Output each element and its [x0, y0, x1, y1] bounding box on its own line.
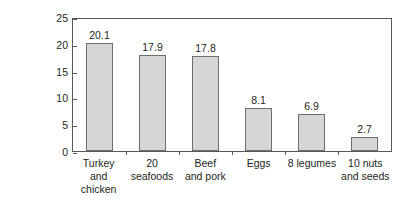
x-axis-tick-mark: [285, 151, 286, 155]
y-axis-tick-mark: [73, 153, 77, 154]
bar: 8.1: [245, 108, 272, 151]
bar-value-label: 8.1: [251, 95, 266, 106]
x-axis-category-label-line: and seeds: [340, 170, 391, 183]
bar-category-slot: 20.1: [73, 19, 126, 151]
x-axis-category-label-line: 10 nuts: [340, 157, 391, 170]
bar-value-label: 2.7: [357, 124, 372, 135]
x-axis-category-label-line: Beef: [180, 157, 231, 170]
bar-value-label: 20.1: [89, 30, 109, 41]
x-axis-category-label-line: seafoods: [126, 170, 177, 183]
bar-value-label: 17.9: [142, 42, 162, 53]
bar-value-label: 17.8: [195, 43, 215, 54]
y-axis-tick-label: 5: [46, 120, 68, 131]
bar: 17.8: [192, 56, 219, 151]
x-axis-tick-mark: [126, 151, 127, 155]
bar-category-slot: 2.7: [338, 19, 391, 151]
bar: 2.7: [351, 137, 378, 151]
x-axis-category-label-line: chicken: [73, 183, 124, 196]
x-axis-tick-mark: [232, 151, 233, 155]
y-axis-tick-label: 10: [46, 93, 68, 104]
bar: 6.9: [298, 114, 325, 151]
x-axis-category-label-line: Eggs: [233, 157, 284, 170]
bar-chart-figure: Grams of protein per 100 kilocalories 05…: [0, 0, 414, 203]
bar-series: 20.117.917.88.16.92.7: [73, 19, 391, 151]
y-axis-tick-label: 15: [46, 66, 68, 77]
bar: 20.1: [86, 43, 113, 151]
y-axis-tick-label: 0: [46, 147, 68, 158]
x-axis-category-label: 8 legumes: [285, 157, 338, 201]
bar-category-slot: 8.1: [232, 19, 285, 151]
x-axis-category-label-line: Turkey and: [73, 157, 124, 183]
y-axis-tick-mark: [73, 19, 77, 20]
plot-area: 20.117.917.88.16.92.7: [72, 18, 392, 152]
x-axis-category-label: 10 nutsand seeds: [339, 157, 392, 201]
x-axis-category-label: Beefand pork: [179, 157, 232, 201]
bar-category-slot: 17.9: [126, 19, 179, 151]
y-axis-tick-mark: [73, 126, 77, 127]
bar-category-slot: 6.9: [285, 19, 338, 151]
x-axis-category-label: Turkey andchicken: [72, 157, 125, 201]
bar-category-slot: 17.8: [179, 19, 232, 151]
x-axis-category-label-line: 20: [126, 157, 177, 170]
bar: 17.9: [139, 55, 166, 151]
x-axis-category-label: Eggs: [232, 157, 285, 201]
x-axis-category-label-line: and pork: [180, 170, 231, 183]
y-axis-tick-label: 20: [46, 40, 68, 51]
y-axis-tick-label: 25: [46, 13, 68, 24]
x-axis-category-labels: Turkey andchicken20seafoodsBeefand porkE…: [72, 157, 392, 201]
y-axis-tick-mark: [73, 46, 77, 47]
y-axis-tick-mark: [73, 73, 77, 74]
y-axis-tick-mark: [73, 99, 77, 100]
x-axis-category-label-line: 8 legumes: [286, 157, 337, 170]
y-axis-tick-labels: 0510152025: [46, 0, 68, 203]
x-axis-tick-mark: [338, 151, 339, 155]
x-axis-category-label: 20seafoods: [125, 157, 178, 201]
x-axis-tick-mark: [179, 151, 180, 155]
bar-value-label: 6.9: [304, 101, 319, 112]
